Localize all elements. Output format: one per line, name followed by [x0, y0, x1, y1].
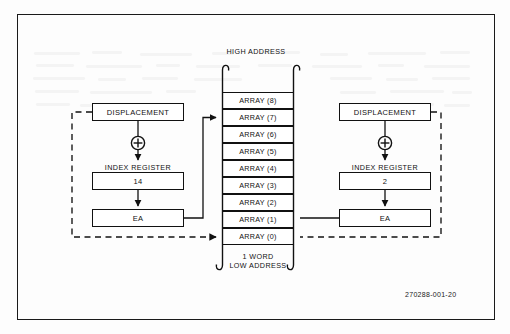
left-index-register-caption: INDEX REGISTER: [88, 163, 188, 172]
one-word-label: 1 WORD: [198, 252, 318, 261]
array-cell-1: ARRAY (1): [222, 211, 294, 228]
left-displacement-box: DISPLACEMENT: [92, 103, 184, 121]
figure-id-label: 270288-001-20: [405, 291, 456, 298]
array-cell-7: ARRAY (7): [222, 109, 294, 126]
right-displacement-box: DISPLACEMENT: [339, 103, 431, 121]
array-cell-8: ARRAY (8): [222, 92, 294, 109]
right-index-register-box: 2: [339, 172, 431, 190]
right-ea-box: EA: [339, 209, 431, 227]
figure-container: HIGH ADDRESS ARRAY (8) ARRAY (7) ARRAY (…: [0, 0, 510, 334]
low-address-label: LOW ADDRESS: [198, 261, 318, 270]
array-cell-6: ARRAY (6): [222, 126, 294, 143]
left-ea-box: EA: [92, 209, 184, 227]
array-cell-4: ARRAY (4): [222, 160, 294, 177]
array-cell-2: ARRAY (2): [222, 194, 294, 211]
array-cell-3: ARRAY (3): [222, 177, 294, 194]
left-index-register-box: 14: [92, 172, 184, 190]
right-index-register-caption: INDEX REGISTER: [335, 163, 435, 172]
array-cell-5: ARRAY (5): [222, 143, 294, 160]
array-cell-0: ARRAY (0): [222, 228, 294, 245]
high-address-label: HIGH ADDRESS: [196, 47, 316, 56]
